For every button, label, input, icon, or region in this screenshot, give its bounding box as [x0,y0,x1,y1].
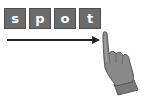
letter-tile-p: p [29,8,51,29]
arrow-line [7,39,94,41]
pointing-hand-icon [98,30,142,96]
letter-tile-t: t [79,8,101,29]
letter-tile-s: s [4,8,26,29]
letter-tile-o: o [54,8,76,29]
